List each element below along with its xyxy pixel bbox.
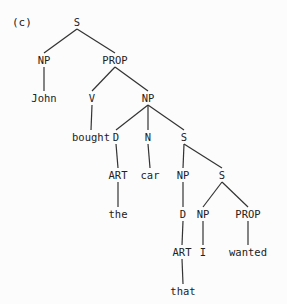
- tree-node-d1: D: [113, 132, 119, 143]
- tree-edge: [115, 67, 148, 91]
- tree-node-s1: S: [181, 132, 187, 143]
- tree-node-s2: S: [219, 170, 225, 181]
- tree-node-np1: NP: [38, 55, 51, 66]
- tree-edge: [116, 105, 148, 130]
- tree-node-s0: S: [74, 17, 80, 28]
- tree-node-that: that: [170, 286, 195, 297]
- parse-tree-figure: (c) SNPPROPJohnVNPboughtDNSARTcarNPStheD…: [0, 0, 287, 304]
- tree-node-car: car: [141, 170, 160, 181]
- tree-node-np4: NP: [197, 209, 210, 220]
- tree-node-v: V: [89, 93, 95, 104]
- tree-node-art1: ART: [109, 170, 128, 181]
- tree-node-the: the: [109, 209, 128, 220]
- tree-node-prop1: PROP: [102, 55, 127, 66]
- tree-edge: [184, 144, 222, 168]
- tree-node-john: John: [31, 93, 56, 104]
- tree-node-np3: NP: [177, 170, 190, 181]
- tree-node-i: I: [200, 247, 206, 258]
- tree-edge: [148, 105, 184, 130]
- tree-node-d2: D: [180, 209, 186, 220]
- tree-edge: [77, 29, 115, 53]
- tree-edge: [116, 144, 118, 168]
- tree-edge: [44, 29, 77, 53]
- tree-edge: [222, 182, 248, 207]
- tree-node-np2: NP: [142, 93, 155, 104]
- tree-edge: [91, 105, 92, 130]
- tree-node-n: N: [145, 132, 151, 143]
- tree-node-art2: ART: [173, 247, 192, 258]
- tree-node-wanted: wanted: [229, 247, 267, 258]
- tree-edges: [0, 0, 287, 304]
- tree-edge: [183, 144, 184, 168]
- tree-node-prop2: PROP: [235, 209, 260, 220]
- tree-edge: [92, 67, 115, 91]
- tree-edge: [203, 182, 222, 207]
- tree-node-bought: bought: [72, 132, 110, 143]
- tree-edge: [182, 259, 183, 284]
- tree-edge: [182, 221, 183, 245]
- tree-edge: [148, 144, 150, 168]
